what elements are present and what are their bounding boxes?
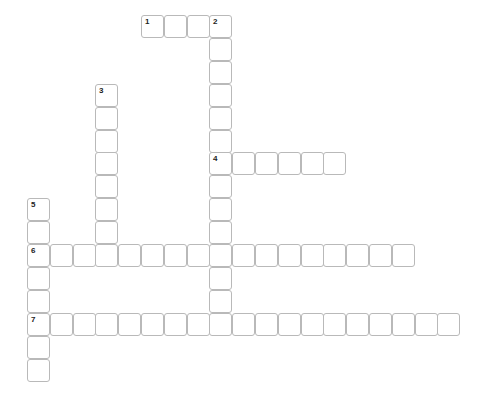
- crossword-cell[interactable]: [323, 313, 346, 336]
- crossword-cell[interactable]: [255, 244, 278, 267]
- crossword-cell[interactable]: [323, 152, 346, 175]
- clue-number: 3: [99, 86, 103, 96]
- clue-number: 1: [145, 17, 149, 27]
- crossword-cell[interactable]: [301, 152, 324, 175]
- crossword-cell[interactable]: [95, 107, 118, 130]
- crossword-cell[interactable]: [50, 313, 73, 336]
- crossword-cell[interactable]: [209, 38, 232, 61]
- crossword-cell[interactable]: 1: [141, 15, 164, 38]
- crossword-cell[interactable]: [27, 221, 50, 244]
- crossword-cell[interactable]: [118, 244, 141, 267]
- crossword-cell[interactable]: [209, 290, 232, 313]
- crossword-cell[interactable]: [232, 152, 255, 175]
- crossword-cell[interactable]: [209, 244, 232, 267]
- clue-number: 2: [213, 17, 217, 27]
- crossword-cell[interactable]: 7: [27, 313, 50, 336]
- crossword-cell[interactable]: [95, 221, 118, 244]
- clue-number: 5: [31, 200, 35, 210]
- crossword-cell[interactable]: [346, 244, 369, 267]
- crossword-cell[interactable]: [392, 244, 415, 267]
- crossword-cell[interactable]: [209, 313, 232, 336]
- crossword-cell[interactable]: [27, 267, 50, 290]
- crossword-cell[interactable]: [209, 107, 232, 130]
- crossword-cell[interactable]: [164, 244, 187, 267]
- crossword-cell[interactable]: [437, 313, 460, 336]
- crossword-cell[interactable]: [95, 152, 118, 175]
- crossword-cell[interactable]: 2: [209, 15, 232, 38]
- crossword-cell[interactable]: [27, 359, 50, 382]
- crossword-cell[interactable]: [209, 175, 232, 198]
- crossword-cell[interactable]: [209, 84, 232, 107]
- crossword-cell[interactable]: [278, 313, 301, 336]
- crossword-cell[interactable]: [95, 198, 118, 221]
- crossword-cell[interactable]: [50, 244, 73, 267]
- crossword-cell[interactable]: [73, 313, 96, 336]
- crossword-cell[interactable]: [369, 244, 392, 267]
- crossword-cell[interactable]: [187, 15, 210, 38]
- crossword-cell[interactable]: [187, 313, 210, 336]
- crossword-cell[interactable]: [209, 198, 232, 221]
- clue-number: 4: [213, 154, 217, 164]
- crossword-cell[interactable]: [118, 313, 141, 336]
- crossword-cell[interactable]: [209, 130, 232, 153]
- clue-number: 7: [31, 315, 35, 325]
- crossword-cell[interactable]: [27, 290, 50, 313]
- crossword-cell[interactable]: [164, 313, 187, 336]
- crossword-cell[interactable]: [232, 313, 255, 336]
- crossword-cell[interactable]: [187, 244, 210, 267]
- crossword-cell[interactable]: [27, 336, 50, 359]
- crossword-cell[interactable]: 6: [27, 244, 50, 267]
- crossword-cell[interactable]: [232, 244, 255, 267]
- crossword-cell[interactable]: [255, 313, 278, 336]
- crossword-cell[interactable]: [209, 267, 232, 290]
- crossword-cell[interactable]: [95, 175, 118, 198]
- crossword-cell[interactable]: [346, 313, 369, 336]
- crossword-cell[interactable]: [323, 244, 346, 267]
- crossword-cell[interactable]: [255, 152, 278, 175]
- crossword-cell[interactable]: [278, 152, 301, 175]
- crossword-cell[interactable]: 4: [209, 152, 232, 175]
- crossword-cell[interactable]: [415, 313, 438, 336]
- crossword-cell[interactable]: [301, 313, 324, 336]
- crossword-cell[interactable]: [95, 244, 118, 267]
- crossword-cell[interactable]: [301, 244, 324, 267]
- crossword-cell[interactable]: [95, 130, 118, 153]
- crossword-cell[interactable]: [278, 244, 301, 267]
- crossword-cell[interactable]: [164, 15, 187, 38]
- crossword-cell[interactable]: [73, 244, 96, 267]
- crossword-cell[interactable]: [141, 244, 164, 267]
- crossword-cell[interactable]: [141, 313, 164, 336]
- crossword-cell[interactable]: 5: [27, 198, 50, 221]
- crossword-cell[interactable]: [209, 61, 232, 84]
- crossword-cell[interactable]: [392, 313, 415, 336]
- crossword-cell[interactable]: [369, 313, 392, 336]
- crossword-cell[interactable]: [95, 313, 118, 336]
- crossword-cell[interactable]: 3: [95, 84, 118, 107]
- crossword-grid: 1243567: [0, 0, 484, 410]
- clue-number: 6: [31, 246, 35, 256]
- crossword-cell[interactable]: [209, 221, 232, 244]
